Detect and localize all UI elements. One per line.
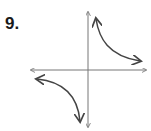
hyperbola-graph [0, 0, 151, 131]
curve-branch-quadrant-3 [37, 79, 80, 121]
curve-branch-quadrant-1 [96, 19, 140, 61]
